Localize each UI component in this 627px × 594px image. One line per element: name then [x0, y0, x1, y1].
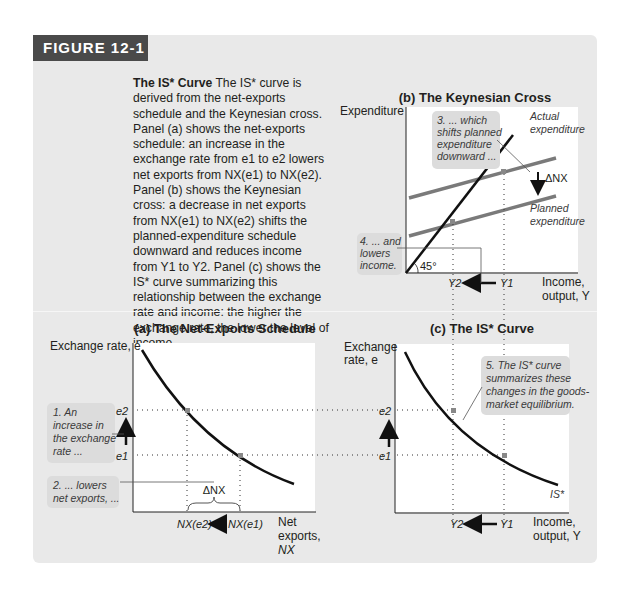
panel-c-xlabel-1: Income, [533, 515, 576, 529]
equilibrium-point-y2 [450, 219, 455, 224]
note-5-line-3: changes in the goods- [486, 385, 590, 397]
planned-label-1: Planned [530, 202, 570, 214]
is-star-label: IS* [550, 488, 565, 500]
panel-a-xlabel-3: NX [278, 543, 296, 557]
equilibrium-point-y1 [501, 169, 506, 174]
panel-a-e2-label: e2 [116, 405, 128, 417]
note-3-line-1: 3. ... which [437, 114, 487, 126]
note-3-line-4: downward ... [437, 150, 497, 162]
note-5-line-2: summarizes these [486, 372, 571, 384]
panel-c-is-star: (c) The IS* Curve Exchange rate, e e2 e1… [344, 321, 590, 543]
note-1-line-3: the exchange [53, 432, 116, 444]
is-point-e1 [502, 453, 507, 458]
panel-a-delta-label: ΔNX [203, 484, 226, 496]
panel-a-nx1-label: NX(e1) [228, 518, 263, 530]
panel-c-y1-label: Y1 [500, 518, 513, 530]
note-4-line-2: lowers [360, 247, 391, 259]
panel-b-y1-label: Y1 [500, 277, 513, 289]
panel-a-xlabel-2: exports, [278, 529, 321, 543]
panel-b-xlabel-1: Income, [542, 275, 585, 289]
note-1-line-2: increase in [53, 419, 104, 431]
actual-label-1: Actual [529, 110, 560, 122]
actual-label-2: expenditure [530, 123, 585, 135]
note-4-line-3: income. [360, 259, 397, 271]
panel-a-title: (a) The Net-Exports Schedule [134, 321, 315, 336]
is-point-e2 [451, 408, 456, 413]
diagram-canvas: (b) The Keynesian Cross Expenditure 45° … [0, 0, 627, 594]
panel-c-title: (c) The IS* Curve [430, 321, 534, 336]
panel-a-e1-label: e1 [116, 450, 128, 462]
note-1-line-1: 1. An [53, 406, 77, 418]
panel-c-e2-label: e2 [379, 405, 391, 417]
note-1-line-4: rate ... [53, 445, 83, 457]
point-e2 [185, 408, 190, 413]
panel-b-title: (b) The Keynesian Cross [399, 90, 551, 105]
panel-c-y2-label: Y2 [450, 518, 463, 530]
note-2-line-1: 2. ... lowers [52, 479, 107, 491]
planned-label-2: expenditure [530, 215, 585, 227]
note-4-line-1: 4. ... and [360, 235, 402, 247]
note-3-line-2: shifts planned [437, 126, 503, 138]
panel-c-e1-label: e1 [379, 450, 391, 462]
panel-c-ylabel-2: rate, e [344, 353, 378, 367]
panel-a-net-exports: (a) The Net-Exports Schedule Exchange ra… [47, 321, 385, 557]
panel-c-xlabel-2: output, Y [533, 529, 581, 543]
angle-label: 45° [420, 260, 437, 272]
panel-b-y2-label: Y2 [448, 277, 461, 289]
panel-a-ylabel: Exchange rate, e [50, 339, 141, 353]
note-3-line-3: expenditure [437, 138, 492, 150]
panel-b-delta-label: ΔNX [545, 172, 568, 184]
panel-a-nx2-label: NX(e2) [177, 518, 212, 530]
note-5-line-4: market equilibrium. [486, 398, 575, 410]
panel-b-ylabel: Expenditure [340, 104, 404, 118]
panel-a-xlabel-1: Net [278, 515, 297, 529]
note-2-line-2: net exports, ... [53, 492, 120, 504]
panel-c-ylabel-1: Exchange [344, 340, 398, 354]
point-e1 [238, 453, 243, 458]
note-5-line-1: 5. The IS* curve [486, 359, 561, 371]
panel-b-xlabel-2: output, Y [542, 289, 590, 303]
